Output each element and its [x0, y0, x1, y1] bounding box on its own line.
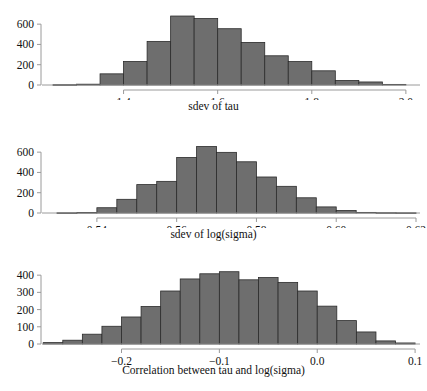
y-axis-tick-label: 400: [17, 166, 35, 178]
histogram-bar: [97, 208, 117, 213]
xaxis-label-sdev-of-tau: sdev of tau: [0, 100, 427, 112]
histogram-bar: [241, 42, 265, 85]
histogram-bar: [259, 278, 279, 344]
y-axis-tick-label: 400: [17, 269, 35, 281]
histogram-bar: [218, 29, 242, 85]
xaxis-label-correlation-tau-log-sigma: Correlation between tau and log(sigma): [0, 364, 427, 376]
histogram-bar: [356, 332, 376, 344]
histogram-bar: [171, 16, 195, 85]
histogram-bar: [117, 199, 137, 213]
histogram-bar: [312, 71, 336, 85]
histogram-bar: [265, 56, 289, 85]
histogram-bar: [124, 61, 148, 85]
histogram-bar: [180, 279, 200, 344]
y-axis-tick-label: 600: [17, 18, 35, 30]
y-axis-tick-label: 200: [17, 59, 35, 71]
y-axis-tick-label: 400: [17, 38, 35, 50]
histogram-bar: [337, 321, 357, 344]
xaxis-label-sdev-of-log-sigma: sdev of log(sigma): [0, 228, 427, 240]
histogram-bar: [137, 185, 157, 213]
histogram-bar: [298, 291, 318, 344]
histogram-bar: [288, 62, 312, 85]
y-axis-tick-label: 0: [28, 338, 34, 350]
histogram-bar: [100, 74, 124, 85]
histogram-bar: [219, 272, 239, 344]
histogram-bar: [217, 152, 237, 213]
histogram-bar: [194, 19, 218, 85]
y-axis-tick-label: 0: [28, 207, 34, 219]
plot-area-correlation-tau-log-sigma: 0100200300400−0.2−0.10.00.1: [0, 256, 427, 366]
histogram-bar: [335, 80, 359, 85]
y-axis-tick-label: 300: [17, 286, 35, 298]
plot-area-sdev-of-log-sigma: 02004006000.540.560.580.600.62: [0, 128, 427, 228]
histogram-bar: [102, 326, 122, 344]
histogram-bar: [147, 41, 171, 85]
y-axis-tick-label: 200: [17, 187, 35, 199]
y-axis-tick-label: 600: [17, 146, 35, 158]
histogram-bar: [278, 282, 298, 344]
histogram-figure: 02004006001.41.61.82.0 sdev of tau 02004…: [0, 0, 427, 391]
histogram-bar: [177, 157, 197, 213]
histogram-bar: [237, 162, 257, 213]
histogram-bar: [197, 147, 217, 213]
y-axis-tick-label: 100: [17, 321, 35, 333]
panel-sdev-of-log-sigma: 02004006000.540.560.580.600.62 sdev of l…: [0, 128, 427, 250]
y-axis-tick-label: 0: [28, 79, 34, 91]
panel-sdev-of-tau: 02004006001.41.61.82.0 sdev of tau: [0, 0, 427, 122]
histogram-bar: [63, 340, 83, 344]
histogram-bar: [296, 198, 316, 213]
histogram-bar: [317, 306, 337, 344]
y-axis-tick-label: 200: [17, 304, 35, 316]
histogram-bar: [276, 186, 296, 213]
histogram-bar: [161, 291, 181, 344]
histogram-bar: [256, 177, 276, 213]
histogram-bar: [316, 207, 336, 213]
histogram-bar: [141, 306, 161, 344]
plot-area-sdev-of-tau: 02004006001.41.61.82.0: [0, 0, 427, 100]
histogram-bar: [239, 280, 259, 344]
histogram-bar: [157, 181, 177, 213]
histogram-bar: [122, 317, 142, 344]
histogram-bar: [82, 334, 102, 344]
panel-correlation-tau-log-sigma: 0100200300400−0.2−0.10.00.1 Correlation …: [0, 256, 427, 391]
histogram-bar: [200, 274, 220, 344]
